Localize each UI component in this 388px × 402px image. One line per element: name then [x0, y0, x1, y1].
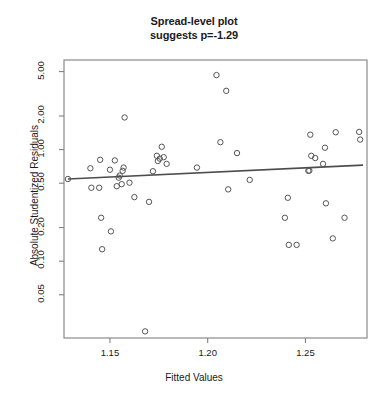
axis-frame — [64, 60, 367, 338]
data-point — [142, 329, 147, 334]
data-point — [308, 132, 313, 137]
data-point — [96, 185, 101, 190]
data-point — [294, 242, 299, 247]
x-tick-label: 1.20 — [188, 347, 228, 358]
data-point — [150, 169, 155, 174]
data-point — [356, 129, 361, 134]
data-point — [333, 130, 338, 135]
data-point — [247, 177, 252, 182]
x-tick-label: 1.25 — [285, 347, 325, 358]
data-point — [119, 181, 124, 186]
data-point — [194, 165, 199, 170]
data-point — [320, 161, 325, 166]
x-axis-title: Fitted Values — [0, 372, 388, 383]
data-point — [357, 137, 362, 142]
data-point — [88, 166, 93, 171]
data-point — [286, 242, 291, 247]
data-point — [226, 187, 231, 192]
data-point — [164, 161, 169, 166]
x-tick-marks — [110, 338, 305, 343]
data-point — [146, 199, 151, 204]
data-point — [323, 201, 328, 206]
spread-level-plot: Spread-level plot suggests p=-1.29 0.050… — [0, 0, 388, 402]
data-point — [285, 195, 290, 200]
data-point — [342, 215, 347, 220]
data-point — [322, 145, 327, 150]
data-point — [234, 150, 239, 155]
data-point — [97, 157, 102, 162]
data-point — [330, 236, 335, 241]
data-point — [108, 229, 113, 234]
data-point — [218, 139, 223, 144]
data-point — [89, 185, 94, 190]
data-point — [99, 247, 104, 252]
data-point — [112, 158, 117, 163]
data-point — [127, 180, 132, 185]
y-tick-marks — [59, 72, 64, 295]
x-tick-label: 1.15 — [90, 347, 130, 358]
data-point — [107, 167, 112, 172]
data-point — [282, 215, 287, 220]
data-point — [224, 88, 229, 93]
data-point — [122, 115, 127, 120]
data-point — [98, 215, 103, 220]
plot-canvas — [0, 0, 388, 402]
trend-line — [68, 165, 363, 179]
data-points — [65, 72, 363, 334]
data-point — [214, 72, 219, 77]
y-axis-title: Absolute Studentized Residuals — [29, 76, 40, 316]
data-point — [159, 144, 164, 149]
data-point — [121, 165, 126, 170]
data-point — [132, 194, 137, 199]
trend-line-segment — [68, 165, 363, 179]
